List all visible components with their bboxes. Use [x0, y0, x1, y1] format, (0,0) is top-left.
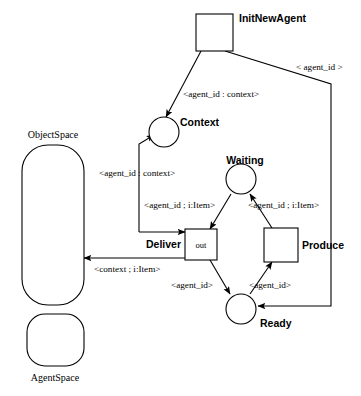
- arc-deliver-to-ready: [210, 260, 230, 294]
- produce-shape: [264, 228, 298, 262]
- initnewagent-label: InitNewAgent: [239, 12, 307, 24]
- objectspace-shape: [22, 145, 84, 305]
- context-shape: [149, 117, 179, 147]
- place-waiting[interactable]: Waiting: [226, 154, 264, 194]
- arc-objectspace-to-context: [139, 135, 154, 232]
- ready-shape: [226, 294, 256, 324]
- place-ready[interactable]: Ready: [226, 294, 292, 329]
- agentspace-shape: [27, 314, 84, 366]
- transition-initnewagent[interactable]: InitNewAgent: [196, 12, 307, 51]
- ready-label: Ready: [260, 317, 292, 329]
- deliver-label: Deliver: [146, 238, 181, 250]
- agentspace-container[interactable]: AgentSpace: [27, 314, 84, 383]
- petri-net-diagram: ObjectSpace AgentSpace InitNewAgent out …: [0, 0, 361, 396]
- initnewagent-shape: [196, 14, 233, 51]
- arc-label-ready-to-produce: <agent_id>: [249, 280, 291, 290]
- arc-label-waiting-to-deliver: <agent_id ; i:Item>: [144, 200, 215, 210]
- place-context[interactable]: Context: [149, 116, 220, 147]
- objectspace-container[interactable]: ObjectSpace: [22, 129, 84, 305]
- produce-label: Produce: [302, 239, 344, 251]
- agentspace-label: AgentSpace: [31, 372, 80, 383]
- context-label: Context: [180, 116, 220, 128]
- arc-label-deliver-to-ready: <agent_id>: [171, 280, 213, 290]
- arc-label-objectspace-to-context: <agent_id : context>: [99, 168, 175, 178]
- objectspace-label: ObjectSpace: [28, 129, 79, 140]
- transition-deliver[interactable]: out Deliver: [146, 229, 217, 260]
- petri-net-canvas: ObjectSpace AgentSpace InitNewAgent out …: [0, 0, 361, 396]
- arc-label-produce-to-waiting: <agent_id ; i:Item>: [248, 200, 319, 210]
- deliver-inner-label: out: [196, 240, 208, 250]
- waiting-shape: [226, 164, 256, 194]
- arc-label-init-to-ready: < agent_id >: [296, 62, 343, 72]
- transition-produce[interactable]: Produce: [264, 228, 344, 262]
- arc-label-deliver-to-objectspace: <context ; i:Item>: [94, 264, 161, 274]
- waiting-label: Waiting: [226, 154, 264, 166]
- arc-label-init-to-context: <agent_id : context>: [183, 89, 259, 99]
- arc-init-to-context: [166, 51, 201, 117]
